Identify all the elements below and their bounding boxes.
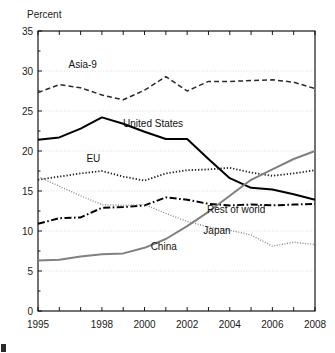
chart-background (0, 0, 335, 353)
x-tick-label-2000: 2000 (133, 319, 156, 330)
y-tick-label-5: 5 (27, 266, 33, 277)
y-tick-label-15: 15 (22, 186, 34, 197)
y-tick-label-25: 25 (22, 106, 34, 117)
x-tick-label-2004: 2004 (219, 319, 242, 330)
y-tick-label-35: 35 (22, 26, 34, 37)
series-label-asia-9: Asia-9 (69, 59, 98, 70)
series-label-united-states: United States (123, 118, 183, 129)
corner-marker (1, 344, 6, 352)
y-axis-title: Percent (27, 9, 62, 20)
percent-share-line-chart: Percent 05101520253035 19951998200020022… (0, 0, 335, 353)
series-label-rest-of-world: Rest of world (207, 204, 265, 215)
series-label-eu: EU (86, 153, 100, 164)
series-label-japan: Japan (203, 225, 230, 236)
x-tick-label-2002: 2002 (176, 319, 199, 330)
x-tick-label-2006: 2006 (261, 319, 284, 330)
y-tick-label-0: 0 (27, 306, 33, 317)
x-tick-label-2008: 2008 (304, 319, 327, 330)
y-tick-label-20: 20 (22, 146, 34, 157)
y-tick-label-10: 10 (22, 226, 34, 237)
y-tick-label-30: 30 (22, 66, 34, 77)
x-tick-label-1998: 1998 (91, 319, 114, 330)
chart-container: Percent 05101520253035 19951998200020022… (0, 0, 335, 353)
series-label-china: China (151, 241, 178, 252)
x-tick-label-1995: 1995 (27, 319, 50, 330)
